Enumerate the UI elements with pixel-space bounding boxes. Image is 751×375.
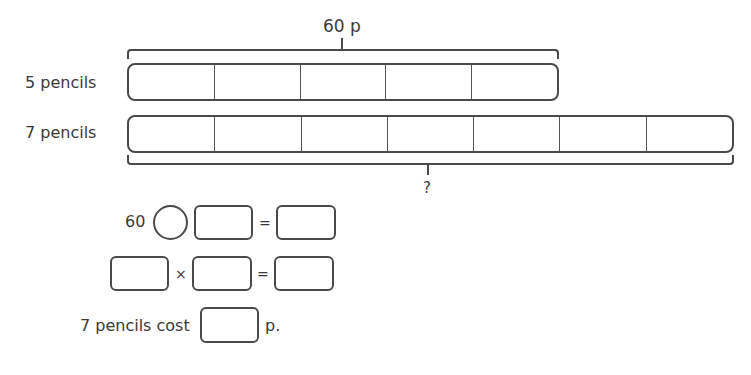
eq2-input-box-2[interactable] (192, 256, 252, 291)
bar-label-5-pencils: 5 pencils (25, 73, 96, 93)
eq2-equals: = (257, 266, 269, 282)
bar-7-pencils (127, 115, 734, 153)
bar-cell (647, 117, 732, 151)
eq1-operator-circle[interactable] (153, 205, 188, 240)
bar-cell (474, 117, 560, 151)
bar-cell (129, 117, 215, 151)
bar-cell (302, 117, 388, 151)
top-bracket-label: 60 p (323, 16, 361, 36)
bar-cell (215, 117, 301, 151)
bar-cell (129, 65, 215, 99)
bar-cell (301, 65, 387, 99)
eq2-input-box-1[interactable] (110, 256, 169, 291)
bottom-bracket-label: ? (423, 178, 431, 198)
answer-box[interactable] (200, 307, 259, 343)
top-bracket (127, 49, 559, 59)
answer-prefix: 7 pencils cost (80, 316, 190, 336)
bar-cell (388, 117, 474, 151)
bar-label-7-pencils: 7 pencils (25, 123, 96, 143)
eq1-equals: = (259, 215, 271, 231)
bar-cell (215, 65, 301, 99)
eq1-number: 60 (125, 212, 145, 232)
eq1-input-box[interactable] (194, 205, 253, 240)
bar-cell (560, 117, 646, 151)
eq2-times: × (175, 266, 187, 282)
bar-5-pencils (127, 63, 559, 101)
answer-suffix: p. (265, 316, 280, 336)
bottom-bracket-tick (427, 164, 429, 175)
eq1-result-box[interactable] (276, 205, 336, 240)
bottom-bracket (127, 155, 734, 165)
bar-cell (386, 65, 472, 99)
bar-cell (472, 65, 557, 99)
eq2-result-box[interactable] (274, 256, 334, 291)
